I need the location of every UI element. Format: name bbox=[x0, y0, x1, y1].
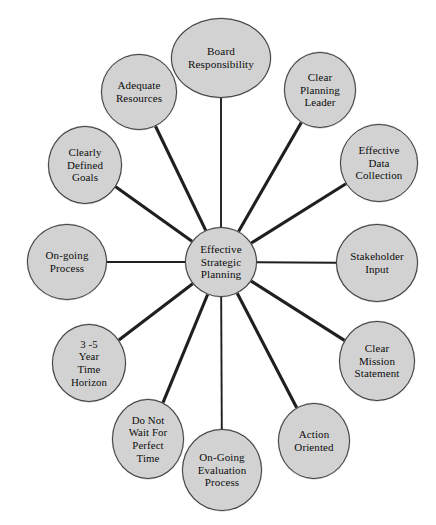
node-board-responsibility[interactable]: Board Responsibility bbox=[171, 18, 271, 98]
node-action-oriented[interactable]: Action Oriented bbox=[278, 403, 350, 479]
node-label-effective-data-collection: Effective Data Collection bbox=[353, 144, 406, 182]
node-label-board-responsibility: Board Responsibility bbox=[185, 45, 257, 71]
node-three-to-five-year-time-horizon[interactable]: 3 -5 Year Time Horizon bbox=[52, 324, 126, 402]
node-label-clear-mission-statement: Clear Mission Statement bbox=[352, 342, 403, 380]
node-on-going-evaluation-process[interactable]: On-Going Evaluation Process bbox=[182, 429, 262, 511]
node-effective-strategic-planning-hub[interactable]: Effective Strategic Planning bbox=[185, 227, 257, 297]
node-on-going-process[interactable]: On-going Process bbox=[27, 224, 107, 300]
node-label-clear-planning-leader: Clear Planning Leader bbox=[297, 71, 343, 109]
node-label-on-going-process: On-going Process bbox=[43, 249, 92, 275]
node-label-stakeholder-input: Stakeholder Input bbox=[347, 250, 407, 276]
node-do-not-wait-for-perfect-time[interactable]: Do Not Wait For Perfect Time bbox=[112, 399, 184, 479]
node-stakeholder-input[interactable]: Stakeholder Input bbox=[336, 224, 418, 302]
node-label-action-oriented: Action Oriented bbox=[291, 428, 336, 454]
node-label-effective-strategic-planning-hub: Effective Strategic Planning bbox=[197, 243, 245, 282]
node-effective-data-collection[interactable]: Effective Data Collection bbox=[340, 124, 418, 202]
node-label-clearly-defined-goals: Clearly Defined Goals bbox=[64, 146, 106, 184]
node-clear-mission-statement[interactable]: Clear Mission Statement bbox=[339, 321, 415, 401]
node-label-do-not-wait-for-perfect-time: Do Not Wait For Perfect Time bbox=[126, 414, 171, 464]
node-clear-planning-leader[interactable]: Clear Planning Leader bbox=[284, 52, 356, 128]
strategic-planning-diagram: Board ResponsibilityClear Planning Leade… bbox=[0, 0, 436, 525]
node-adequate-resources[interactable]: Adequate Resources bbox=[101, 54, 177, 130]
node-label-three-to-five-year-time-horizon: 3 -5 Year Time Horizon bbox=[68, 338, 110, 388]
node-clearly-defined-goals[interactable]: Clearly Defined Goals bbox=[48, 126, 122, 204]
node-label-on-going-evaluation-process: On-Going Evaluation Process bbox=[195, 451, 250, 489]
node-layer: Board ResponsibilityClear Planning Leade… bbox=[0, 0, 436, 525]
node-label-adequate-resources: Adequate Resources bbox=[113, 79, 165, 105]
